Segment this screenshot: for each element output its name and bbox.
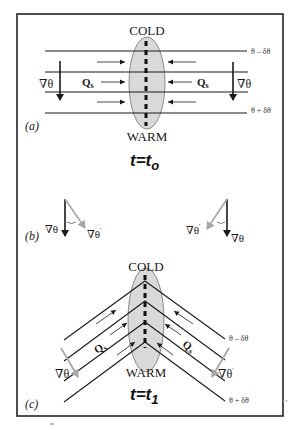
rotation-angle-arc	[67, 222, 76, 224]
panel-b-label: (b)	[25, 229, 39, 243]
gradient-right-label: ∇θ'	[218, 366, 233, 381]
qs-right-label: Qs	[180, 338, 197, 356]
isentrope-lower-label: θ + δθ	[229, 396, 249, 405]
flow-arrow	[174, 311, 193, 324]
panel-c-label: (c)	[25, 397, 38, 411]
rotated-gradient-label: ∇θ'	[87, 226, 101, 240]
rotated-gradient-arrow	[207, 199, 227, 229]
time-label-t1: t=t1	[130, 385, 159, 407]
qs-left-label: Qs	[82, 76, 94, 90]
rotated-gradient-label: ∇θ'	[186, 222, 200, 236]
time-label-t0: t=to	[130, 151, 159, 173]
gradient-right-label: ∇θ	[237, 77, 251, 91]
cold-label: COLD	[129, 23, 164, 38]
rotated-gradient-arrow	[65, 199, 85, 228]
isentrope-upper-label: θ – δθ	[229, 334, 249, 343]
gradient-left-label: ∇θ	[55, 367, 69, 381]
gradient-label: ∇θ	[45, 223, 58, 235]
gradient-left-label: ∇θ	[39, 77, 53, 91]
qs-right-label: Qs	[197, 76, 209, 90]
panel-c: COLD WARM θ – δθ θ + δθ ∇θ ∇θ' Qs Qs (c)…	[25, 259, 249, 411]
gradient-label: ∇θ	[231, 232, 244, 244]
panel-a: COLD WARM θ – δθ θ + δθ ∇θ ∇θ Qs Qs (a) …	[25, 23, 271, 173]
flow-arrow	[96, 310, 116, 324]
warm-label: WARM	[127, 129, 168, 144]
rotation-angle-arc	[217, 222, 225, 224]
panel-a-label: (a)	[25, 119, 39, 133]
warm-label: WARM	[126, 365, 167, 380]
panel-b: ∇θ ∇θ' (b) ∇θ' ∇θ	[25, 199, 244, 244]
isentrope-upper-label: θ – δθ	[251, 47, 271, 56]
frontogenesis-diagram: COLD WARM θ – δθ θ + δθ ∇θ ∇θ Qs Qs (a) …	[0, 0, 294, 430]
isentrope-lower-label: θ + δθ	[251, 106, 271, 115]
cold-label: COLD	[128, 259, 163, 274]
